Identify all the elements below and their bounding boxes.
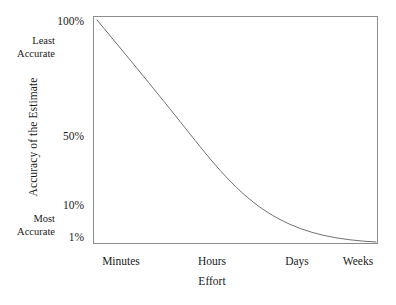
curve-path (97, 20, 376, 242)
annotation-least-accurate: Least Accurate (17, 35, 55, 60)
estimate-accuracy-chart: 100% 50% 10% 1% Least Accurate Most Accu… (0, 0, 396, 305)
y-tick-label-10: 10% (63, 199, 84, 211)
y-tick-label-1: 1% (69, 231, 84, 243)
annotation-most-accurate: Most Accurate (17, 213, 55, 238)
x-axis-title: Effort (198, 275, 225, 287)
x-tick-label-hours: Hours (198, 255, 226, 268)
y-axis-title: Accuracy of the Estimate (27, 78, 39, 197)
accuracy-decay-curve (93, 16, 378, 244)
annotation-least-accurate-line2: Accurate (17, 48, 55, 61)
annotation-most-accurate-line2: Accurate (17, 226, 55, 239)
y-tick-label-100: 100% (57, 15, 84, 27)
x-tick-label-days: Days (285, 255, 309, 268)
annotation-least-accurate-line1: Least (17, 35, 55, 48)
x-tick-label-weeks: Weeks (343, 255, 373, 268)
x-tick-label-minutes: Minutes (102, 255, 140, 268)
annotation-most-accurate-line1: Most (17, 213, 55, 226)
y-tick-label-50: 50% (63, 130, 84, 142)
